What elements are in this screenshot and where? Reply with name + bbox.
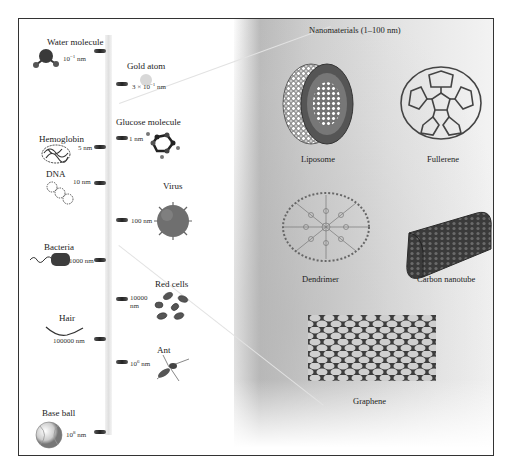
value-virus: 100 nm	[131, 217, 152, 225]
label-base-ball: Base ball	[42, 408, 75, 418]
label-gold-atom: Gold atom	[127, 61, 165, 71]
value-gold-atom: 3 × 10−1 nm	[132, 81, 166, 91]
caption-fullerene: Fullerene	[427, 154, 459, 164]
label-red-cells: Red cells	[155, 279, 188, 289]
value-hair: 100000 nm	[53, 337, 85, 345]
bacteria-icon	[29, 251, 71, 267]
carbon-nanotube-icon	[403, 211, 494, 283]
virus-icon	[153, 201, 193, 241]
label-water-molecule: Water molecule	[47, 37, 104, 47]
water-molecule-icon	[31, 47, 61, 69]
graphene-icon	[308, 315, 436, 381]
value-base-ball: 108 nm	[66, 429, 86, 439]
caption-liposome: Liposome	[301, 154, 335, 164]
tick-bacteria	[94, 258, 106, 262]
tick-water	[94, 49, 106, 53]
scale-ruler	[105, 35, 112, 435]
liposome-icon	[281, 61, 359, 147]
red-cells-icon	[153, 291, 193, 321]
glucose-molecule-icon	[143, 129, 183, 159]
tick-baseball	[94, 430, 106, 434]
label-dna: DNA	[46, 169, 66, 179]
label-glucose-molecule: Glucose molecule	[116, 117, 181, 127]
label-hair: Hair	[59, 313, 75, 323]
value-dna: 10 nm	[73, 178, 91, 186]
label-virus: Virus	[163, 181, 182, 191]
value-ant: 106 nm	[130, 358, 150, 368]
hemoglobin-icon	[40, 143, 72, 165]
tick-dna	[94, 181, 106, 185]
caption-dendrimer: Dendrimer	[302, 274, 339, 284]
ant-icon	[149, 353, 193, 383]
tick-virus	[116, 218, 128, 222]
diagram-frame: Nanomaterials (1–100 nm) Water molecule …	[18, 18, 494, 456]
baseball-icon	[34, 420, 64, 450]
fullerene-icon	[399, 65, 483, 141]
value-red-cells: 10000 nm	[130, 294, 150, 310]
caption-graphene: Graphene	[353, 396, 386, 406]
tick-hair	[94, 337, 106, 341]
tick-ant	[116, 360, 128, 364]
dna-icon	[45, 181, 75, 205]
caption-carbon-nanotube: Carbon nanotube	[417, 274, 475, 284]
value-glucose-molecule: 1 nm	[129, 135, 143, 143]
value-bacteria: 1000 nm	[69, 257, 94, 265]
tick-gold	[116, 82, 128, 86]
tick-redcells	[116, 297, 128, 301]
panel-title: Nanomaterials (1–100 nm)	[309, 25, 401, 35]
value-hemoglobin: 5 nm	[78, 144, 92, 152]
tick-hemoglobin	[94, 145, 106, 149]
tick-glucose	[116, 136, 128, 140]
dendrimer-icon	[281, 191, 371, 263]
value-water-molecule: 10−1 nm	[63, 53, 86, 63]
